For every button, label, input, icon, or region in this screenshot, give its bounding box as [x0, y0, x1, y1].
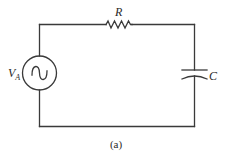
circuit-wires	[40, 25, 195, 127]
resistor: R	[106, 5, 132, 28]
ac-voltage-source: VA	[8, 56, 57, 90]
rc-circuit-diagram: VA R C (a)	[0, 0, 228, 157]
figure-caption: (a)	[110, 138, 123, 151]
capacitor-label: C	[209, 69, 218, 83]
resistor-zigzag	[106, 21, 132, 28]
resistor-label: R	[114, 5, 123, 19]
sine-wave-icon	[32, 66, 47, 79]
capacitor: C	[182, 69, 218, 83]
source-label: VA	[8, 66, 20, 82]
